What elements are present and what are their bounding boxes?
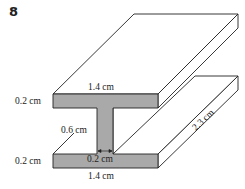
label-bottom-flange-thickness: 0.2 cm: [15, 157, 41, 167]
label-bottom-flange-width: 1.4 cm: [88, 172, 114, 182]
label-top-flange-thickness: 0.2 cm: [15, 97, 41, 107]
label-top-flange-width: 1.4 cm: [88, 83, 114, 93]
label-web-height: 0.6 cm: [61, 126, 87, 136]
label-web-width: 0.2 cm: [87, 155, 113, 165]
